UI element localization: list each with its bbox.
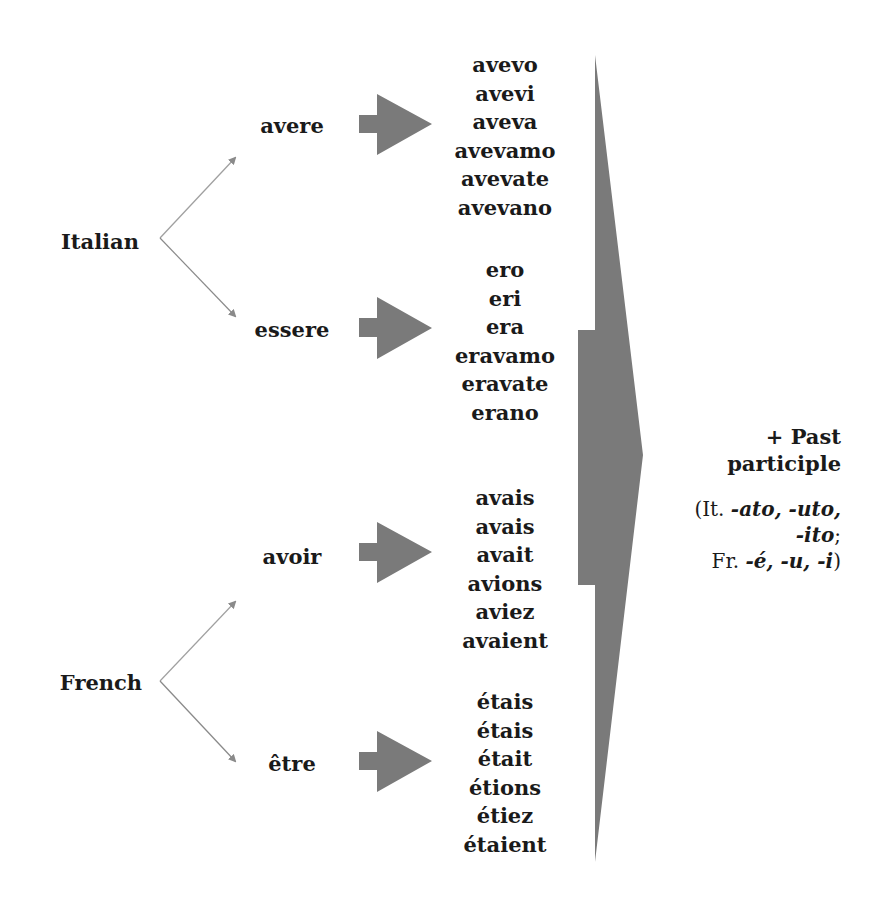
result-title-line2: participle <box>694 450 841 477</box>
form-item: erano <box>420 399 590 428</box>
note-fr-prefix: Fr. <box>712 549 746 573</box>
form-item: avions <box>420 570 590 599</box>
note-it-end: ; <box>834 523 841 547</box>
form-item: avais <box>420 513 590 542</box>
form-item: avevate <box>420 165 590 194</box>
forms-list-avere: avevo avevi aveva avevamo avevate avevan… <box>420 51 590 222</box>
form-item: avevano <box>420 194 590 223</box>
form-item: eravate <box>420 370 590 399</box>
french-connector <box>160 602 235 761</box>
result-note-italian-line2: -ito; <box>694 522 841 548</box>
form-item: étaient <box>420 831 590 860</box>
form-item: aviez <box>420 598 590 627</box>
form-item: étais <box>420 717 590 746</box>
form-item: aveva <box>420 108 590 137</box>
aux-verb-avere: avere <box>260 114 324 138</box>
form-item: eravamo <box>420 342 590 371</box>
forms-list-essere: ero eri era eravamo eravate erano <box>420 256 590 427</box>
note-fr-end: ) <box>833 549 841 573</box>
form-item: étions <box>420 774 590 803</box>
note-it-suffixes-2: -ito <box>796 523 834 547</box>
form-item: avevamo <box>420 137 590 166</box>
form-item: étais <box>420 688 590 717</box>
form-item: étiez <box>420 802 590 831</box>
result-note-italian-line1: (It. -ato, -uto, <box>694 496 841 522</box>
spacer <box>694 477 841 496</box>
italian-connector <box>160 158 235 316</box>
result-block: + Past participle (It. -ato, -uto, -ito;… <box>694 423 841 574</box>
connector-italian-avere <box>160 158 235 238</box>
connector-italian-essere <box>160 238 235 316</box>
forms-list-avoir: avais avais avait avions aviez avaient <box>420 484 590 655</box>
result-note-french: Fr. -é, -u, -i) <box>694 548 841 574</box>
form-item: avait <box>420 541 590 570</box>
form-item: avais <box>420 484 590 513</box>
note-it-prefix: (It. <box>694 497 730 521</box>
language-label-italian: Italian <box>61 230 139 254</box>
form-item: ero <box>420 256 590 285</box>
connector-french-avoir <box>160 602 235 681</box>
aux-verb-avoir: avoir <box>263 545 322 569</box>
form-item: era <box>420 313 590 342</box>
forms-list-etre: étais étais était étions étiez étaient <box>420 688 590 859</box>
connector-french-etre <box>160 681 235 761</box>
form-item: était <box>420 745 590 774</box>
form-item: eri <box>420 285 590 314</box>
form-item: avevo <box>420 51 590 80</box>
language-label-french: French <box>60 671 142 695</box>
note-it-suffixes-1: -ato, -uto, <box>731 497 841 521</box>
form-item: avevi <box>420 80 590 109</box>
aux-verb-etre: être <box>268 752 316 776</box>
form-item: avaient <box>420 627 590 656</box>
note-fr-suffixes: -é, -u, -i <box>746 549 834 573</box>
aux-verb-essere: essere <box>255 318 330 342</box>
result-title-line1: + Past <box>694 423 841 450</box>
